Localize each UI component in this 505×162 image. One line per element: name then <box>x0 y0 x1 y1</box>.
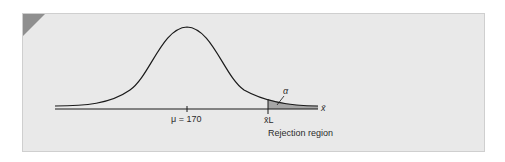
rejection-region-shading <box>268 99 318 109</box>
normal-curve <box>55 27 318 106</box>
critical-value-label: x̄L <box>264 115 274 125</box>
alpha-label: α <box>283 86 288 96</box>
normal-distribution-diagram <box>0 0 505 162</box>
rejection-region-label: Rejection region <box>268 128 333 138</box>
mean-label: μ = 170 <box>171 114 201 124</box>
x-axis-label: x̄ <box>321 103 326 113</box>
